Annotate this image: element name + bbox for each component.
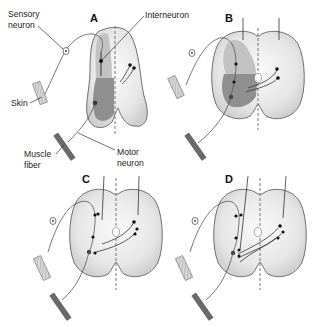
skin-b bbox=[168, 75, 185, 98]
panel-c: C bbox=[33, 173, 162, 320]
neuron-dot bbox=[52, 220, 54, 222]
neuron-dot bbox=[191, 52, 193, 54]
panel-label-d: D bbox=[225, 173, 233, 185]
leader-motor bbox=[78, 133, 115, 150]
neuron-dot bbox=[239, 213, 242, 216]
panel-b: B bbox=[168, 12, 305, 160]
label-sensory-2: neuron bbox=[8, 20, 35, 30]
grey-matter-ventral-a bbox=[93, 78, 114, 121]
label-motor-2: neuron bbox=[117, 158, 144, 168]
muscle-fiber-c bbox=[50, 293, 71, 320]
neuron-dot bbox=[132, 220, 136, 224]
neuron-dot bbox=[194, 220, 196, 222]
neuron-dot bbox=[278, 224, 282, 228]
reflex-arc-diagram: A Sensory neuron Interneuron bbox=[0, 0, 315, 327]
neuron-dot bbox=[93, 251, 96, 254]
muscle-fiber-d bbox=[192, 293, 213, 320]
muscle-fiber-b bbox=[185, 133, 206, 160]
skin-c bbox=[33, 255, 50, 280]
neuron-dot bbox=[132, 66, 136, 70]
neuron-dot bbox=[234, 236, 237, 239]
panel-label-a: A bbox=[90, 12, 98, 24]
neuron-dot bbox=[91, 235, 94, 238]
neuron-dot bbox=[281, 230, 284, 233]
neuron-dot bbox=[135, 227, 138, 230]
leader-muscle bbox=[56, 145, 64, 154]
label-skin: Skin bbox=[11, 98, 28, 108]
label-muscle-1: Muscle bbox=[24, 149, 51, 159]
panel-label-c: C bbox=[82, 173, 90, 185]
neuron-dot bbox=[238, 255, 241, 258]
panel-label-b: B bbox=[225, 12, 233, 24]
neuron-dot bbox=[96, 212, 99, 215]
skin-d bbox=[175, 255, 192, 280]
neuron-dot bbox=[276, 236, 279, 239]
label-motor-1: Motor bbox=[117, 147, 139, 157]
neuron-dot bbox=[65, 50, 67, 52]
neuron-dot bbox=[234, 214, 237, 217]
label-muscle-2: fiber bbox=[24, 160, 41, 170]
neuron-dot bbox=[232, 80, 235, 83]
central-canal-b bbox=[255, 74, 262, 83]
neuron-dot bbox=[275, 67, 279, 71]
neuron-dot bbox=[133, 232, 136, 235]
panel-d: D bbox=[175, 173, 306, 320]
label-interneuron: Interneuron bbox=[145, 10, 189, 20]
label-sensory-1: Sensory bbox=[8, 9, 40, 19]
neuron-dot bbox=[276, 76, 280, 80]
neuron-dot bbox=[93, 213, 96, 216]
muscle-fiber-a bbox=[54, 133, 75, 160]
neuron-dot bbox=[128, 63, 132, 67]
neuron-dot bbox=[238, 249, 241, 252]
central-canal-d bbox=[255, 228, 262, 237]
leader-sensory bbox=[38, 26, 63, 49]
central-canal-c bbox=[113, 228, 120, 237]
neuron-dot bbox=[234, 62, 237, 65]
